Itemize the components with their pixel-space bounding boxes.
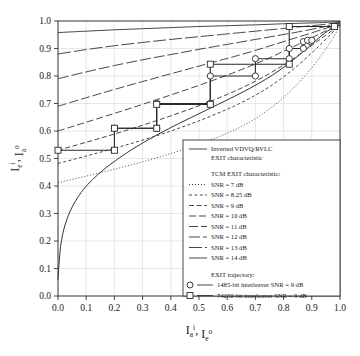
legend-label-snr-3: SNR = 9 dB (211, 202, 244, 209)
legend-group-title-exit-trajectory: EXIT trajectory: (211, 271, 255, 278)
x-tick-label: 0.2 (108, 303, 120, 313)
y-tick-label: 0.5 (39, 154, 51, 164)
legend-label-snr-5: SNR = 11 dB (211, 223, 247, 230)
x-tick-label: 0.5 (193, 303, 205, 313)
y-tick-label: 0.0 (39, 291, 51, 301)
y-tick-label: 0.9 (39, 44, 51, 54)
legend-label-snr-1: SNR = 7 dB (211, 181, 244, 188)
y-tick-label: 0.8 (39, 71, 51, 81)
y-tick-label: 0.2 (39, 236, 51, 246)
trajectory-marker-square (111, 147, 117, 153)
legend-box (183, 140, 340, 296)
trajectory-marker-square (207, 61, 213, 67)
trajectory-marker-square (111, 125, 117, 131)
y-tick-label: 0.6 (39, 126, 51, 136)
trajectory-marker-circle (252, 56, 258, 62)
legend-label-trajectory-1: 1485-bit interleaver SNR = 9 dB (217, 281, 304, 288)
trajectory-marker-square (207, 101, 213, 107)
trajectory-marker-square (55, 147, 61, 153)
y-tick-label: 0.4 (39, 181, 51, 191)
trajectory-marker-circle (207, 73, 213, 79)
legend-label-inverted-vdvq-rvlc-line1: Inverted VDVQ/RVLC (211, 145, 273, 152)
legend-label-snr-4: SNR = 10 dB (211, 212, 247, 219)
trajectory-marker-square (331, 24, 337, 30)
x-tick-label: 0.8 (278, 303, 290, 313)
x-tick-label: 0.0 (52, 303, 64, 313)
trajectory-marker-square (154, 125, 160, 131)
legend-label-inverted-vdvq-rvlc-line2: EXIT characteristic (211, 154, 263, 161)
exit-chart-figure: 0.00.10.20.30.40.50.60.70.80.91.0 0.00.1… (0, 0, 360, 356)
x-tick-label: 0.7 (249, 303, 261, 313)
legend-label-snr-2: SNR = 8.25 dB (211, 191, 252, 198)
y-tick-label: 0.7 (39, 99, 51, 109)
x-tick-label: 1.0 (334, 303, 346, 313)
trajectory-marker-square (286, 24, 292, 30)
trajectory-marker-circle (309, 37, 315, 43)
legend-marker-circle (187, 282, 193, 288)
trajectory-marker-circle (252, 73, 258, 79)
x-tick-label: 0.3 (137, 303, 149, 313)
legend-label-snr-8: SNR = 14 dB (211, 254, 247, 261)
chart-legend: Inverted VDVQ/RVLCEXIT characteristicTCM… (183, 140, 340, 299)
y-tick-label: 1.0 (39, 16, 51, 26)
trajectory-marker-circle (286, 45, 292, 51)
trajectory-marker-circle (300, 45, 306, 51)
trajectory-marker-square (286, 61, 292, 67)
legend-group-title-tcm: TCM EXIT characteristic: (211, 170, 281, 177)
trajectory-marker-square (154, 101, 160, 107)
legend-label-snr-7: SNR = 13 dB (211, 244, 247, 251)
y-tick-label: 0.1 (39, 264, 51, 274)
legend-label-trajectory-2: 74250-bit interleaver SNR = 9 dB (217, 292, 307, 299)
legend-marker-square (187, 293, 193, 299)
exit-chart-svg: 0.00.10.20.30.40.50.60.70.80.91.0 0.00.1… (0, 0, 360, 356)
x-tick-label: 0.6 (221, 303, 233, 313)
legend-label-snr-6: SNR = 12 dB (211, 233, 247, 240)
x-tick-label: 0.4 (165, 303, 177, 313)
x-tick-label: 0.1 (80, 303, 92, 313)
y-tick-label: 0.3 (39, 209, 51, 219)
x-tick-label: 0.9 (306, 303, 318, 313)
